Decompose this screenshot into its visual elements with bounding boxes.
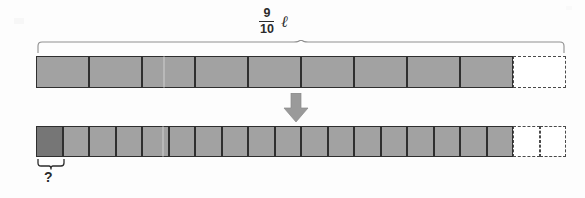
- top-brace: [36, 40, 566, 53]
- bottom-bar-segment: [407, 126, 434, 157]
- bottom-bar-segment: [275, 126, 302, 157]
- question-mark-label: ?: [44, 170, 53, 184]
- bottom-bar: [36, 126, 566, 157]
- top-bar-segment: [407, 56, 460, 88]
- top-bar-segment: [460, 56, 513, 88]
- bottom-bar-segment: [63, 126, 90, 157]
- bottom-bar-segment: [89, 126, 116, 157]
- top-bar-segment: [36, 56, 89, 88]
- bottom-bar-segment: [222, 126, 249, 157]
- bottom-bar-segment: [142, 126, 169, 157]
- fraction-nine-tenths: 9 10: [258, 7, 276, 36]
- bottom-bar-segment: [434, 126, 461, 157]
- top-bar-segment: [301, 56, 354, 88]
- bottom-bar-segment: [354, 126, 381, 157]
- fraction-numerator: 9: [261, 7, 272, 21]
- top-bar-segment: [354, 56, 407, 88]
- bottom-bar-segment: [328, 126, 355, 157]
- bottom-bar-segment: [195, 126, 222, 157]
- top-bar-segment: [89, 56, 142, 88]
- bottom-bar-segment: [301, 126, 328, 157]
- bottom-bar-segment: [487, 126, 514, 157]
- bottom-bar-segment: [381, 126, 408, 157]
- top-bar-segment: [142, 56, 195, 88]
- bottom-bar-empty-segment: [513, 126, 540, 157]
- bottom-bar-segment: [248, 126, 275, 157]
- down-arrow-icon: [283, 93, 309, 123]
- top-bar-segment: [195, 56, 248, 88]
- bottom-bar-segment: [460, 126, 487, 157]
- bottom-bar-segment: [169, 126, 196, 157]
- bottom-bar-segment: [116, 126, 143, 157]
- fraction-denominator: 10: [258, 22, 276, 36]
- top-bar-segment: [248, 56, 301, 88]
- top-bar: [36, 56, 566, 88]
- bottom-bar-empty-segment: [540, 126, 567, 157]
- bottom-bar-highlighted-segment: [36, 126, 63, 157]
- top-bar-empty-segment: [513, 56, 566, 88]
- figure-canvas: 9 10 ℓ: [0, 0, 585, 198]
- liter-unit-symbol: ℓ: [281, 13, 288, 31]
- fraction-label: 9 10 ℓ: [258, 7, 288, 36]
